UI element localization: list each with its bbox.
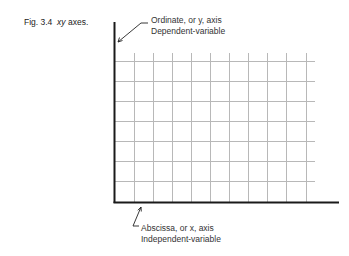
ordinate-label: Ordinate, or y, axis Dependent-variable [151,15,225,37]
grid [114,53,315,202]
abscissa-label-line1: Abscissa, or x, axis [141,223,221,234]
ordinate-label-line1: Ordinate, or y, axis [151,15,225,26]
ordinate-label-line2: Dependent-variable [151,26,225,37]
xy-axes-diagram [0,0,349,256]
abscissa-label: Abscissa, or x, axis Independent-variabl… [141,223,221,245]
ordinate-arrow-icon [118,23,148,42]
abscissa-label-line2: Independent-variable [141,234,221,245]
